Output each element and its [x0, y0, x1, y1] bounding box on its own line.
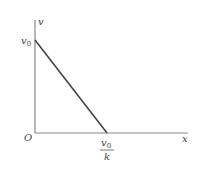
- origin-label: O: [24, 132, 32, 143]
- svg-text:k: k: [104, 151, 110, 162]
- graph-canvas: v v0 O v0 k x: [0, 0, 206, 171]
- y-intercept-label: v0: [21, 35, 31, 48]
- svg-text:v0: v0: [101, 137, 111, 150]
- y-axis-label: v: [38, 16, 44, 27]
- x-axis-label: x: [182, 133, 188, 144]
- x-intercept-label: v0 k: [100, 137, 114, 162]
- velocity-line: [35, 40, 107, 133]
